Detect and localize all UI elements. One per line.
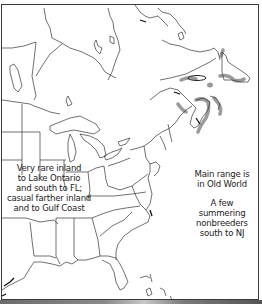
borders <box>2 5 250 300</box>
summering-note: A few summering nonbreeders south to NJ <box>186 198 258 238</box>
frame-shadow <box>0 300 262 304</box>
range-island <box>207 83 213 88</box>
note-line: in Old World <box>186 179 258 189</box>
note-line: A few summering <box>186 198 258 218</box>
note-line: south to NJ <box>186 228 258 238</box>
note-line: and to Gulf Coast <box>4 203 94 213</box>
main-range-note: Main range is in Old World <box>186 169 258 189</box>
range-shading <box>178 50 244 132</box>
range-map <box>0 0 262 304</box>
inland-occurrence-note: Very rare inland to Lake Ontario and sou… <box>4 163 94 213</box>
range-notes: Main range is in Old World A few summeri… <box>186 169 258 238</box>
